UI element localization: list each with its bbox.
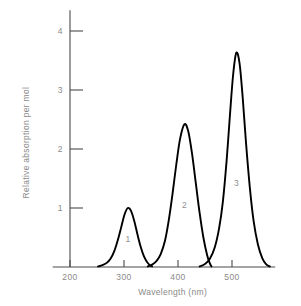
absorption-curve-3 [200,52,270,266]
y-tick-label-1: 1 [58,203,63,213]
y-tick-label-2: 2 [58,144,63,154]
y-axis-title: Relative absorption per mol [21,87,31,199]
y-tick-label-3: 3 [58,85,63,95]
curves-group [98,52,270,266]
x-tick-label-400: 400 [170,272,185,282]
absorption-spectrum-chart: 1234200300400500Wavelength (nm)Relative … [0,0,301,306]
absorption-curve-2 [148,124,212,266]
y-tick-label-4: 4 [58,26,63,36]
peak-label-2: 2 [182,200,187,210]
x-tick-label-200: 200 [62,272,77,282]
peak-label-3: 3 [234,178,239,188]
x-tick-label-500: 500 [224,272,239,282]
peak-label-1: 1 [125,234,130,244]
x-axis-title: Wavelength (nm) [138,287,207,297]
x-tick-label-300: 300 [116,272,131,282]
chart-canvas: 1234200300400500Wavelength (nm)Relative … [0,0,301,306]
